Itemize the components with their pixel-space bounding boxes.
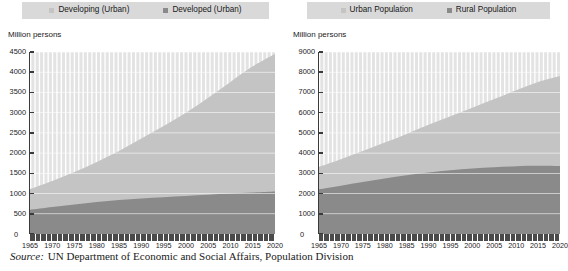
y-axis-tick-label: 3000 xyxy=(10,109,26,116)
y-axis-tick-mark xyxy=(30,112,34,114)
legend-label-developed-urban: Developed (Urban) xyxy=(172,6,241,14)
y-axis-tick-label: 1000 xyxy=(10,190,26,197)
x-axis-tick-label: 1980 xyxy=(89,242,105,249)
chart-panel-urban-by-development-group: Developing (Urban) Developed (Urban) Mil… xyxy=(0,0,283,248)
y-axis-tick-label: 1500 xyxy=(10,170,26,177)
y-axis-title-left: Million persons xyxy=(8,30,61,39)
y-axis-tick-label: 4500 xyxy=(10,48,26,55)
legend-swatch-urban-population xyxy=(341,8,346,13)
legend-item-developed-urban: Developed (Urban) xyxy=(163,6,241,14)
legend-item-developing-urban: Developing (Urban) xyxy=(49,6,129,14)
plot-area-right: 100020003000400050006000700080009000 xyxy=(289,52,560,234)
x-axis-tick-label: 1970 xyxy=(333,242,349,249)
y-axis-tick-label: 4000 xyxy=(10,69,26,76)
source-prefix: Source: xyxy=(10,250,44,262)
x-axis-tick xyxy=(555,234,560,241)
y-axis-tick-mark xyxy=(30,193,34,195)
source-note: Source:UN Department of Economic and Soc… xyxy=(10,250,353,262)
chart-legend-right: Urban Population Rural Population xyxy=(307,2,550,19)
x-axis-tick-label: 1985 xyxy=(399,242,415,249)
y-axis-tick-label: 5000 xyxy=(299,129,315,136)
x-axis-ticks-right xyxy=(319,234,560,241)
area-chart-left xyxy=(30,52,275,234)
legend-swatch-rural-population xyxy=(447,8,452,13)
legend-swatch-developed-urban xyxy=(163,8,168,13)
y-axis-tick-label: 8000 xyxy=(299,69,315,76)
x-axis-tick-label: 1980 xyxy=(377,242,393,249)
y-axis-tick-label: 500 xyxy=(14,210,26,217)
x-axis-tick-label: 1990 xyxy=(133,242,149,249)
legend-item-urban-population: Urban Population xyxy=(341,6,413,14)
plot-area-left: 50010001500200025003000350040004500 xyxy=(4,52,275,234)
y-axis-tick-mark xyxy=(319,112,323,114)
x-axis-tick-label: 1995 xyxy=(156,242,172,249)
y-axis-tick-label: 6000 xyxy=(299,109,315,116)
x-axis-tick-label: 1995 xyxy=(442,242,458,249)
chart-panel-urban-and-rural-population: Urban Population Rural Population Millio… xyxy=(283,0,566,248)
x-axis-band-right xyxy=(319,234,560,241)
x-axis-tick-label: 1975 xyxy=(67,242,83,249)
y-axis-title-right: Million persons xyxy=(293,30,346,39)
x-axis-labels-right: 1965197019751980198519901995200020052010… xyxy=(319,242,560,253)
y-axis-tick-label: 7000 xyxy=(299,89,315,96)
y-axis-tick-mark xyxy=(319,51,323,53)
y-axis-tick-mark xyxy=(319,213,323,215)
y-axis-tick-label: 4000 xyxy=(299,149,315,156)
x-axis-tick-label: 2020 xyxy=(267,242,283,249)
y-axis-tick-label: 9000 xyxy=(299,48,315,55)
y-axis-tick-mark xyxy=(30,51,34,53)
x-axis-tick-label: 2000 xyxy=(464,242,480,249)
legend-label-rural-population: Rural Population xyxy=(456,6,517,14)
y-axis-tick-mark xyxy=(319,132,323,134)
y-axis-tick-label: 2500 xyxy=(10,129,26,136)
x-axis-tick-label: 2005 xyxy=(200,242,216,249)
legend-label-developing-urban: Developing (Urban) xyxy=(58,6,129,14)
y-axis-tick-mark xyxy=(319,173,323,175)
x-axis-tick-label: 1990 xyxy=(421,242,437,249)
y-axis-tick-mark xyxy=(319,92,323,94)
x-axis-tick-label: 1970 xyxy=(44,242,60,249)
x-axis-tick-label: 1965 xyxy=(22,242,38,249)
x-axis-tick xyxy=(269,234,275,241)
y-axis-tick-label: 1000 xyxy=(299,210,315,217)
x-axis-tick-label: 2010 xyxy=(222,242,238,249)
y-axis-tick-mark xyxy=(30,92,34,94)
x-axis-tick-label: 2010 xyxy=(508,242,524,249)
y-axis-zero-label-left: 0 xyxy=(14,231,18,238)
y-axis-zero-label-right: 0 xyxy=(300,231,304,238)
x-axis-tick-label: 1965 xyxy=(311,242,327,249)
y-axis-tick-mark xyxy=(30,152,34,154)
y-axis-tick-mark xyxy=(319,193,323,195)
y-axis-tick-label: 2000 xyxy=(10,149,26,156)
legend-label-urban-population: Urban Population xyxy=(350,6,413,14)
y-axis-tick-mark xyxy=(319,71,323,73)
x-axis-tick-label: 2015 xyxy=(245,242,261,249)
y-axis-tick-mark xyxy=(319,152,323,154)
x-axis-ticks-left xyxy=(30,234,275,241)
y-axis-labels-left: 50010001500200025003000350040004500 xyxy=(4,52,28,234)
legend-swatch-developing-urban xyxy=(49,8,54,13)
x-axis-tick-label: 2015 xyxy=(530,242,546,249)
y-axis-tick-mark xyxy=(30,132,34,134)
y-axis-tick-label: 3000 xyxy=(299,170,315,177)
x-axis-tick-label: 1985 xyxy=(111,242,127,249)
legend-item-rural-population: Rural Population xyxy=(447,6,517,14)
chart-legend-left: Developing (Urban) Developed (Urban) xyxy=(22,2,269,19)
y-axis-tick-mark xyxy=(30,213,34,215)
y-axis-tick-mark xyxy=(30,173,34,175)
source-text: UN Department of Economic and Social Aff… xyxy=(48,250,354,262)
x-axis-tick-label: 2000 xyxy=(178,242,194,249)
x-axis-tick-label: 1975 xyxy=(355,242,371,249)
area-chart-right xyxy=(319,52,560,234)
y-axis-tick-label: 3500 xyxy=(10,89,26,96)
x-axis-tick-label: 2005 xyxy=(486,242,502,249)
y-axis-tick-mark xyxy=(30,71,34,73)
x-axis-band-left xyxy=(30,234,275,241)
plot-canvas-left xyxy=(30,52,275,234)
y-axis-labels-right: 100020003000400050006000700080009000 xyxy=(289,52,317,234)
y-axis-tick-label: 2000 xyxy=(299,190,315,197)
plot-canvas-right xyxy=(319,52,560,234)
x-axis-tick-label: 2020 xyxy=(552,242,568,249)
